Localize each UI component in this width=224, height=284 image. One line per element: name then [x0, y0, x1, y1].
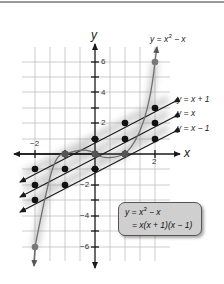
y-tick-label: 2: [101, 118, 105, 127]
y-tick-label: −2: [80, 180, 89, 189]
line-label-x-plus-1: y = x + 1: [177, 94, 210, 104]
x-axis-label: x: [184, 146, 190, 160]
equation-box: y = x3 − x = x(x + 1)(x − 1): [118, 202, 202, 236]
y-tick-label: 4: [101, 88, 105, 97]
line-label-x-minus-1: y = x − 1: [177, 123, 210, 133]
equation-line-2: = x(x + 1)(x − 1): [132, 220, 192, 230]
y-tick-label: 6: [101, 57, 105, 66]
x-tick-label: −2: [30, 139, 39, 148]
equation-line-1: y = x3 − x: [125, 206, 160, 217]
line-label-x: y = x: [177, 108, 195, 118]
x-tick-label: 2: [152, 157, 156, 166]
y-axis-label: y: [91, 28, 97, 42]
y-tick-label: −6: [80, 242, 89, 251]
y-tick-label: −4: [80, 211, 89, 220]
curve-label: y = x3 − x: [150, 33, 185, 44]
